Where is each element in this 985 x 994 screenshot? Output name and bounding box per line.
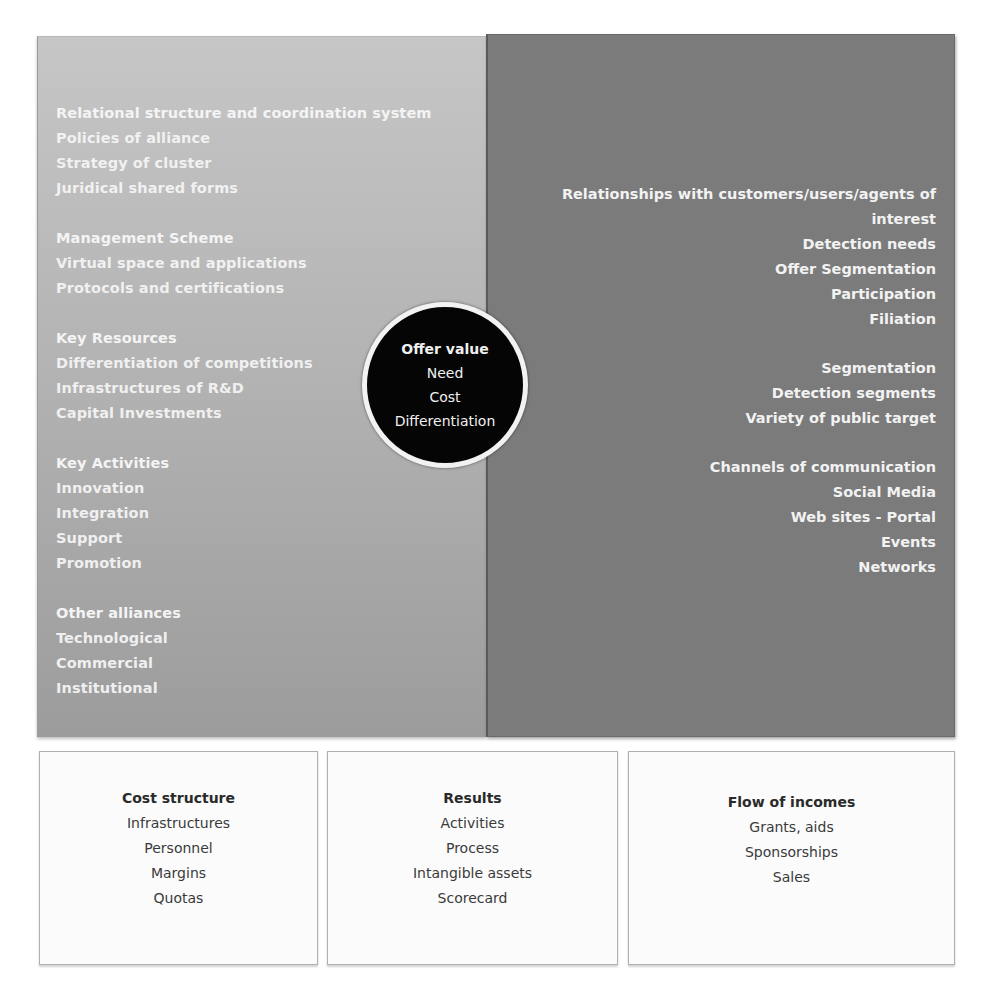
- box-item: Sales: [773, 865, 810, 890]
- offer-value-circle: Offer value Need Cost Differentiation: [362, 302, 528, 468]
- box-item: Infrastructures: [127, 811, 230, 836]
- list-item: Social Media: [516, 480, 936, 505]
- list-item: Juridical shared forms: [56, 176, 432, 201]
- group-heading: Relational structure and coordination sy…: [56, 101, 432, 126]
- list-item: Participation: [516, 282, 936, 307]
- group-channels: Channels of communication Social Media W…: [516, 455, 936, 580]
- group-heading: Channels of communication: [516, 455, 936, 480]
- list-item: Technological: [56, 626, 432, 651]
- box-heading: Cost structure: [122, 786, 235, 811]
- box-item: Activities: [441, 811, 505, 836]
- list-item: Integration: [56, 501, 432, 526]
- box-item: Sponsorships: [745, 840, 838, 865]
- list-item: Promotion: [56, 551, 432, 576]
- group-heading-continued: interest: [516, 207, 936, 232]
- group-heading: Segmentation: [516, 356, 936, 381]
- circle-heading: Offer value: [401, 337, 488, 361]
- list-item: Events: [516, 530, 936, 555]
- list-item: Detection segments: [516, 381, 936, 406]
- circle-item: Cost: [429, 385, 460, 409]
- box-heading: Results: [443, 786, 501, 811]
- group-heading: Relationships with customers/users/agent…: [516, 182, 936, 207]
- list-item: Institutional: [56, 676, 432, 701]
- box-item: Scorecard: [438, 886, 508, 911]
- customers-channels-panel: Relationships with customers/users/agent…: [486, 34, 955, 737]
- group-key-activities: Key Activities Innovation Integration Su…: [56, 451, 432, 576]
- box-item: Margins: [151, 861, 206, 886]
- box-item: Personnel: [144, 836, 212, 861]
- list-item: Commercial: [56, 651, 432, 676]
- group-relational-structure: Relational structure and coordination sy…: [56, 101, 432, 201]
- group-heading: Management Scheme: [56, 226, 432, 251]
- group-heading: Key Activities: [56, 451, 432, 476]
- flow-of-incomes-box: Flow of incomes Grants, aids Sponsorship…: [628, 751, 955, 965]
- list-item: Detection needs: [516, 232, 936, 257]
- circle-item: Need: [427, 361, 464, 385]
- group-segmentation: Segmentation Detection segments Variety …: [516, 356, 936, 431]
- group-management-scheme: Management Scheme Virtual space and appl…: [56, 226, 432, 301]
- group-other-alliances: Other alliances Technological Commercial…: [56, 601, 432, 701]
- list-item: Variety of public target: [516, 406, 936, 431]
- list-item: Support: [56, 526, 432, 551]
- right-panel-text: Relationships with customers/users/agent…: [516, 182, 936, 604]
- box-item: Grants, aids: [749, 815, 833, 840]
- list-item: Protocols and certifications: [56, 276, 432, 301]
- box-item: Quotas: [154, 886, 204, 911]
- list-item: Networks: [516, 555, 936, 580]
- results-box: Results Activities Process Intangible as…: [327, 751, 618, 965]
- list-item: Filiation: [516, 307, 936, 332]
- cost-structure-box: Cost structure Infrastructures Personnel…: [39, 751, 318, 965]
- circle-item: Differentiation: [395, 409, 496, 433]
- box-item: Intangible assets: [413, 861, 532, 886]
- box-item: Process: [446, 836, 499, 861]
- list-item: Policies of alliance: [56, 126, 432, 151]
- group-relationships: Relationships with customers/users/agent…: [516, 182, 936, 332]
- list-item: Web sites - Portal: [516, 505, 936, 530]
- list-item: Innovation: [56, 476, 432, 501]
- box-heading: Flow of incomes: [728, 790, 855, 815]
- list-item: Strategy of cluster: [56, 151, 432, 176]
- list-item: Offer Segmentation: [516, 257, 936, 282]
- group-heading: Other alliances: [56, 601, 432, 626]
- list-item: Virtual space and applications: [56, 251, 432, 276]
